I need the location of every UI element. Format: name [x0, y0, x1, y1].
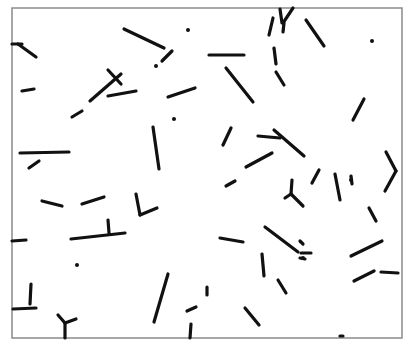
line-segments-figure [0, 0, 410, 346]
line-segment [162, 51, 172, 61]
line-segment [280, 9, 282, 23]
line-segment [187, 307, 196, 311]
line-segment [385, 171, 396, 191]
line-segment [312, 170, 319, 183]
segment-group [12, 8, 398, 338]
dot [172, 117, 176, 121]
line-segment [30, 284, 31, 304]
line-segment [29, 161, 39, 168]
line-segment [353, 99, 364, 120]
line-segment [65, 319, 76, 323]
line-segment [274, 48, 276, 64]
line-segment [274, 130, 304, 156]
line-segment [369, 208, 376, 221]
line-segment [124, 29, 164, 48]
line-segment [246, 153, 272, 167]
line-segment [220, 238, 243, 242]
line-segment [283, 23, 284, 32]
line-segment [22, 89, 34, 91]
dot [349, 178, 353, 182]
line-segment [136, 194, 140, 215]
line-segment [82, 197, 104, 204]
dot [301, 256, 305, 260]
line-segment [381, 272, 398, 273]
line-segment [108, 220, 109, 233]
line-segment [258, 136, 280, 138]
dot [154, 64, 158, 68]
line-segment [12, 240, 26, 241]
line-segment [265, 227, 298, 252]
line-segment [18, 44, 36, 57]
line-segment [276, 72, 284, 85]
line-segment [20, 152, 69, 153]
line-segment [283, 8, 293, 23]
line-segment [226, 181, 235, 186]
dot [186, 28, 190, 32]
line-segment [154, 274, 168, 322]
line-segment [226, 68, 253, 102]
line-segment [72, 111, 82, 117]
line-segment [190, 324, 191, 338]
line-segment [13, 308, 36, 309]
dot [370, 39, 374, 43]
line-segment [386, 152, 396, 171]
dot-group [75, 28, 374, 267]
line-segment [223, 128, 231, 145]
line-segment [168, 88, 195, 97]
line-segment [291, 194, 303, 206]
line-segment [262, 254, 264, 276]
figure-canvas [0, 0, 410, 346]
line-segment [269, 18, 273, 35]
line-segment [108, 91, 136, 96]
line-segment [245, 308, 259, 325]
line-segment [90, 74, 121, 101]
line-segment [335, 174, 340, 200]
line-segment [306, 20, 324, 46]
dot [75, 263, 79, 267]
line-segment [351, 241, 382, 256]
line-segment [300, 241, 303, 244]
line-segment [354, 271, 374, 281]
line-segment [42, 201, 62, 206]
line-segment [71, 233, 125, 239]
line-segment [278, 280, 286, 293]
line-segment [153, 127, 159, 169]
line-segment [291, 180, 292, 194]
line-segment [140, 208, 157, 215]
